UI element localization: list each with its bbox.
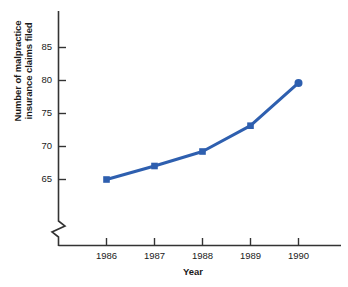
x-tick-label-1987: 1987 [135,250,175,261]
data-point-1990 [295,79,303,87]
x-tick-label-1988: 1988 [183,250,223,261]
axis-break-zigzag [52,218,65,246]
y-axis-title-line-2: insurance claims filed [23,22,35,119]
x-tick-label-1986: 1986 [87,250,127,261]
y-axis-title: Number of malpractice insurance claims f… [7,1,39,141]
data-point-1987 [151,163,158,170]
chart-plot-area [0,0,348,287]
y-tick-label-65: 65 [30,173,52,184]
line-chart: 85 80 75 70 65 1986 1987 1988 1989 1990 … [0,0,348,287]
data-point-1988 [199,148,206,155]
x-tick-label-1989: 1989 [231,250,271,261]
data-line-series-1 [107,83,299,180]
data-point-1989 [247,122,254,129]
x-tick-label-1990: 1990 [279,250,319,261]
x-axis-title: Year [163,266,223,277]
y-axis-title-line-1: Number of malpractice [12,21,24,122]
data-point-1986 [103,176,110,183]
y-tick-label-70: 70 [30,140,52,151]
